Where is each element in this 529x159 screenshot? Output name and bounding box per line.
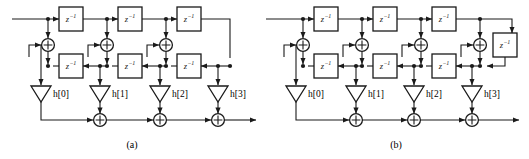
- panel-b-delay-extra: z−1: [487, 33, 517, 66]
- panel-a-gain-h0: h[0]: [31, 86, 69, 102]
- panel-a-delay-top-2: z−1: [118, 7, 142, 31]
- panel-b-adder-out-sum-1: [350, 114, 363, 127]
- panel-a-adder-out-sum-3: [212, 114, 225, 127]
- panel-b-caption: (b): [390, 139, 402, 151]
- panel-b: z−1 z−1 z−1: [266, 7, 519, 151]
- junction-dot: [105, 64, 109, 68]
- panel-a-gain-h2: h[2]: [150, 86, 188, 102]
- panel-a-fb-3: [147, 45, 159, 57]
- tap-label-h2: h[2]: [172, 89, 188, 99]
- figure-container: z−1 z−1 z−1: [0, 0, 529, 159]
- junction-dot: [301, 64, 305, 68]
- panel-a-delay-bottom-3: z−1: [177, 54, 201, 78]
- panel-a-delay-bottom-2: z−1: [118, 54, 142, 78]
- panel-a-adder-upper-1: [42, 39, 55, 52]
- panel-a-fb-1: [29, 45, 41, 57]
- panel-a-adder-out-sum-1: [94, 114, 107, 127]
- panel-a-caption: (a): [126, 139, 137, 151]
- panel-a-adder-upper-2: [101, 39, 114, 52]
- junction-dot: [228, 64, 232, 68]
- junction-dot: [354, 64, 358, 68]
- tap-label-h0: h[0]: [53, 89, 69, 99]
- panel-b-fb-3: [402, 45, 414, 57]
- junction-dot: [164, 64, 168, 68]
- panel-b-adder-upper-1: [297, 39, 310, 52]
- panel-b-delay-bottom-2: z−1: [373, 54, 397, 78]
- panel-b-delay-top-2: z−1: [373, 7, 397, 31]
- panel-b-adder-upper-4: [474, 39, 487, 52]
- panel-a-sum-in-0: [41, 102, 93, 120]
- panel-a-delay-top-3: z−1: [177, 7, 201, 31]
- junction-dot: [216, 64, 220, 68]
- panel-b-fb-4: [461, 45, 473, 57]
- junction-dot: [360, 64, 364, 68]
- panel-a: z−1 z−1 z−1: [12, 7, 256, 151]
- panel-b-delay-top-1: z−1: [314, 7, 338, 31]
- tap-label-h0: h[0]: [308, 89, 324, 99]
- panel-b-fb-2: [343, 45, 355, 57]
- tap-label-h2: h[2]: [426, 89, 442, 99]
- panel-b-adder-upper-2: [356, 39, 369, 52]
- panel-b-gain-h1: h[1]: [346, 86, 384, 102]
- panel-a-fb-2: [88, 45, 100, 57]
- panel-a-gain-h3: h[3]: [208, 86, 246, 102]
- panel-b-sum-in-0: [296, 102, 349, 120]
- tap-label-h1: h[1]: [368, 89, 384, 99]
- junction-dot: [158, 64, 162, 68]
- panel-b-gain-h2: h[2]: [404, 86, 442, 102]
- signal-flow-diagram: z−1 z−1 z−1: [0, 0, 529, 159]
- panel-a-gain-h1: h[1]: [90, 86, 128, 102]
- panel-b-fb-1: [284, 45, 296, 57]
- junction-dot: [98, 64, 102, 68]
- junction-dot: [478, 64, 482, 68]
- panel-b-adder-out-sum-3: [466, 114, 479, 127]
- panel-b-adder-upper-3: [415, 39, 428, 52]
- junction-dot: [412, 64, 416, 68]
- tap-label-h1: h[1]: [112, 89, 128, 99]
- panel-b-gain-h0: h[0]: [286, 86, 324, 102]
- panel-a-adder-out-sum-2: [154, 114, 167, 127]
- panel-b-delay-bottom-3: z−1: [432, 54, 456, 78]
- junction-dot: [470, 64, 474, 68]
- tap-label-h3: h[3]: [230, 89, 246, 99]
- junction-dot: [419, 64, 423, 68]
- panel-a-delay-top-1: z−1: [59, 7, 83, 31]
- panel-b-gain-h3: h[3]: [462, 86, 500, 102]
- panel-b-delay-top-3: z−1: [432, 7, 456, 31]
- panel-b-delay-bottom-1: z−1: [314, 54, 338, 78]
- panel-a-adder-upper-3: [160, 39, 173, 52]
- panel-b-adder-out-sum-2: [408, 114, 421, 127]
- panel-a-delay-bottom-1: z−1: [59, 54, 83, 78]
- tap-label-h3: h[3]: [484, 89, 500, 99]
- junction-dot: [46, 64, 50, 68]
